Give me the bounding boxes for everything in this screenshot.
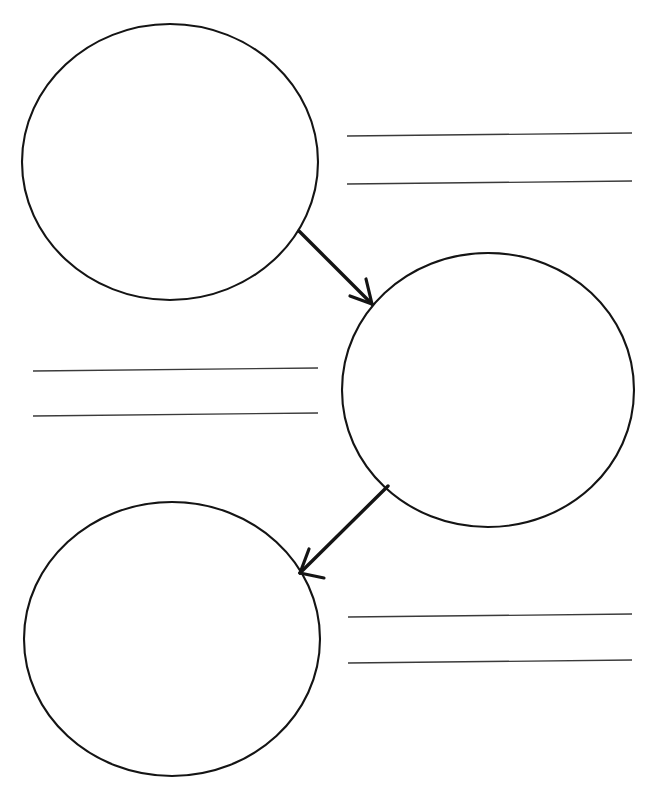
write-lines-bottom-right[interactable] xyxy=(348,614,632,663)
write-line-ml-2[interactable] xyxy=(33,413,318,416)
node-circle-1[interactable] xyxy=(22,24,318,300)
node-circle-3[interactable] xyxy=(24,502,320,776)
write-lines-top-right[interactable] xyxy=(347,133,632,184)
write-line-br-2[interactable] xyxy=(348,660,632,663)
write-line-ml-1[interactable] xyxy=(33,368,318,371)
write-lines-middle-left[interactable] xyxy=(33,368,318,416)
circle-3-outline xyxy=(24,502,320,776)
arrow-circle1-to-circle2 xyxy=(299,231,372,304)
write-line-tr-1[interactable] xyxy=(347,133,632,136)
arrow-circle2-to-circle3 xyxy=(300,486,388,578)
graphic-organizer-canvas xyxy=(0,0,659,805)
arrow-1-shaft xyxy=(299,231,372,304)
circle-1-outline xyxy=(22,24,318,300)
worksheet-page xyxy=(0,0,659,805)
write-line-br-1[interactable] xyxy=(348,614,632,617)
arrow-2-shaft xyxy=(300,486,388,573)
write-line-tr-2[interactable] xyxy=(347,181,632,184)
